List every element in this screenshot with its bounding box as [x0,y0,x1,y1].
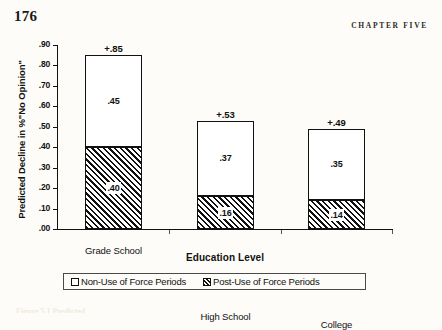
legend-label-non-use-of-force: Non-Use of Force Periods [81,276,186,287]
y-axis-title: Predicted Decline in %"No Opinion" [16,40,27,240]
y-tick-label-0: .90 [39,39,50,49]
running-head-chapter: CHAPTER FIVE [351,21,428,30]
bar-segment-label-post-use-0: .40 [107,183,121,193]
legend-label-post-use-of-force: Post-Use of Force Periods [213,276,319,287]
legend-item-non-use-of-force[interactable]: Non-Use of Force Periods [71,276,186,287]
bar-total-label-1: +.53 [179,109,272,120]
y-tick-8: .10 [53,209,57,210]
x-tick-2 [392,230,393,234]
bar-segment-post-use-0[interactable]: .40 [85,147,142,229]
x-tick-0 [169,230,170,234]
y-tick-6: .30 [53,168,57,169]
figure-caption-cropped: Figure 5.1 Predicted [16,307,85,313]
bar-segment-post-use-2[interactable]: .14 [308,200,365,229]
y-tick-label-3: .60 [39,100,50,110]
y-tick-7: .20 [53,188,57,189]
legend-item-post-use-of-force[interactable]: Post-Use of Force Periods [203,276,319,287]
y-tick-label-9: .00 [39,223,50,233]
bar-segment-label-non-use-1: .37 [220,154,232,163]
bar-segment-non-use-1[interactable]: .37 [197,121,254,197]
y-tick-2: .70 [53,86,57,87]
y-tick-label-7: .20 [39,182,50,192]
bar-segment-label-non-use-0: .45 [108,97,120,106]
y-tick-9: .00 [53,229,57,230]
bar-group-high-school[interactable]: +.53 .37 .16 High School [197,121,254,229]
x-category-label-1: High School [167,311,284,322]
bar-segment-non-use-0[interactable]: .45 [85,55,142,147]
x-axis-line [57,229,393,230]
x-axis-title: Education Level [57,252,393,263]
bar-total-label-0: +.85 [67,43,160,54]
y-tick-label-5: .40 [39,141,50,151]
y-tick-4: .50 [53,127,57,128]
bar-group-college[interactable]: +.49 .35 .14 College [308,129,365,229]
legend-swatch-white-icon [71,278,79,286]
chart-legend: Non-Use of Force Periods Post-Use of For… [63,273,366,290]
bar-segment-non-use-2[interactable]: .35 [308,129,365,201]
y-tick-label-1: .80 [39,59,50,69]
y-tick-5: .40 [53,147,57,148]
y-tick-label-6: .30 [39,162,50,172]
y-tick-1: .80 [53,65,57,66]
figure-stacked-bar-chart: Predicted Decline in %"No Opinion" .90 .… [0,33,442,298]
bar-segment-label-post-use-2: .14 [330,210,344,220]
y-tick-label-4: .50 [39,121,50,131]
y-tick-label-2: .70 [39,80,50,90]
page-number: 176 [14,8,37,25]
bar-segment-label-non-use-2: .35 [331,160,343,169]
bar-segment-post-use-1[interactable]: .16 [197,196,254,229]
y-tick-0: .90 [53,45,57,46]
bar-segment-label-post-use-1: .16 [219,208,233,218]
legend-swatch-hatched-icon [203,278,211,286]
plot-area: .90 .80 .70 .60 .50 .40 .30 .20 .10 .00 [57,45,393,229]
y-tick-3: .60 [53,106,57,107]
y-tick-label-8: .10 [39,203,50,213]
bar-group-grade-school[interactable]: +.85 .45 .40 Grade School [85,55,142,229]
y-axis-line [57,45,58,230]
x-category-label-2: College [278,319,395,330]
x-tick-1 [281,230,282,234]
bar-total-label-2: +.49 [290,117,383,128]
